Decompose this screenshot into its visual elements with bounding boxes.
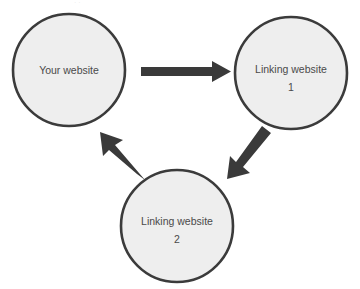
arrow-down-left-shape — [227, 126, 271, 179]
node-your-website[interactable]: Your website — [13, 14, 125, 126]
node-linking-website-1-label-line1: Linking website — [255, 63, 327, 75]
diagram-canvas: · · Your website Linking website 1 — [0, 0, 360, 289]
arrow-linking-1-to-linking-2 — [227, 126, 271, 179]
diagram-svg: Your website Linking website 1 Linking w… — [0, 0, 360, 289]
node-linking-website-2-label-line2: 2 — [174, 233, 180, 245]
node-linking-website-1[interactable]: Linking website 1 — [235, 17, 347, 129]
node-linking-website-2[interactable]: Linking website 2 — [121, 170, 233, 282]
arrow-up-left-shape — [100, 132, 145, 180]
arrow-linking-2-to-your-website — [100, 132, 145, 180]
node-your-website-label-line1: Your website — [39, 64, 99, 76]
arrow-right-shape — [141, 61, 231, 82]
node-linking-website-2-label-line1: Linking website — [141, 215, 213, 227]
arrow-your-website-to-linking-1 — [141, 61, 231, 82]
node-linking-website-1-label-line2: 1 — [288, 81, 294, 93]
